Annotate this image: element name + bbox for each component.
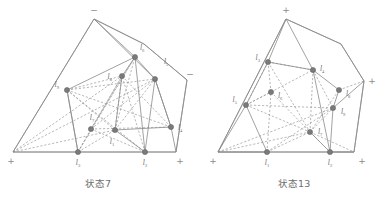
graph-edge-dashed [13, 130, 115, 152]
polarity-marker-apex: − [90, 5, 98, 15]
node-label-l8: l8 [346, 89, 351, 99]
diagram-panel-state-13: ++++l1l2l3l4l5l6l7l8l9 状态13 [196, 0, 392, 211]
graph-edge-dashed [339, 81, 364, 90]
polarity-marker-right: + [368, 76, 376, 86]
node-label-l1: l1 [265, 158, 270, 168]
graph-edge-solid [135, 57, 145, 152]
graph-edge-dashed [267, 92, 271, 152]
graph-node-l7[interactable] [88, 126, 93, 131]
graph-node-l9[interactable] [330, 105, 335, 110]
graph-edge-dashed [218, 108, 333, 152]
graph-edge-dashed [246, 105, 310, 132]
node-label-l2: l2 [143, 158, 148, 168]
graph-canvas-state-7: −−++l1l2l3l4l5l6l7l8l9 [0, 0, 196, 185]
node-label-l5: l5 [233, 95, 238, 105]
polarity-marker-bottom-left: + [209, 156, 217, 166]
graph-edge-dashed [313, 70, 333, 108]
diagram-panel-state-7: −−++l1l2l3l4l5l6l7l8l9 状态7 [0, 0, 196, 211]
figure-root: −−++l1l2l3l4l5l6l7l8l9 状态7 ++++l1l2l3l4l… [0, 0, 392, 211]
graph-node-l8[interactable] [119, 73, 124, 78]
graph-node-l5[interactable] [243, 102, 248, 107]
graph-edge-solid [176, 80, 187, 152]
graph-edge-dashed [67, 90, 145, 152]
graph-edge-solid [341, 44, 364, 81]
graph-edge-dashed [271, 92, 310, 132]
graph-node-l5[interactable] [152, 76, 157, 81]
graph-outline [218, 19, 364, 152]
graph-node-l2[interactable] [142, 149, 147, 154]
graph-edge-dashed [268, 62, 310, 132]
node-label-l5: l5 [164, 57, 169, 67]
graph-node-l1[interactable] [112, 127, 117, 132]
graph-node-l3[interactable] [265, 59, 270, 64]
graph-canvas-state-13: ++++l1l2l3l4l5l6l7l8l9 [196, 0, 392, 185]
graph-outline [13, 19, 187, 152]
graph-edge-dashed [91, 79, 155, 129]
graph-node-l9[interactable] [64, 87, 69, 92]
node-label-l3: l3 [76, 158, 81, 168]
node-label-l7: l7 [318, 127, 323, 137]
graph-edge-solid [268, 19, 286, 62]
graph-edge-dashed [67, 76, 122, 90]
graph-edge-dashed [115, 57, 135, 130]
graph-edge-solid [218, 19, 286, 152]
graph-edge-solid [330, 108, 333, 152]
graph-edge-solid [313, 70, 330, 152]
graph-edge-solid [155, 79, 171, 127]
graph-edge-dashed [78, 129, 91, 152]
graph-edge-solid [354, 81, 364, 152]
graph-node-l4[interactable] [310, 67, 315, 72]
graph-edge-solid [246, 62, 268, 105]
node-label-l7: l7 [90, 113, 95, 123]
graph-edge-solid [94, 19, 144, 44]
node-label-l4: l4 [320, 64, 325, 74]
graph-node-l7[interactable] [307, 129, 312, 134]
polarity-marker-right: − [186, 69, 194, 79]
graph-edge-solid [145, 79, 155, 152]
graph-edge-solid [135, 57, 155, 79]
polarity-marker-bottom-right: + [176, 156, 184, 166]
graph-edge-solid [218, 105, 246, 152]
graph-node-l4[interactable] [168, 124, 173, 129]
graph-edge-solid [94, 19, 155, 79]
graph-edge-dashed [310, 132, 354, 152]
graph-edge-solid [171, 127, 176, 152]
node-label-l9: l9 [55, 80, 60, 90]
graph-edge-dashed [122, 76, 145, 152]
graph-node-l6[interactable] [268, 89, 273, 94]
graph-edge-solid [13, 19, 94, 152]
caption-state-7: 状态7 [0, 176, 196, 190]
graph-node-l1[interactable] [264, 149, 269, 154]
caption-state-13: 状态13 [196, 176, 392, 190]
graph-node-l8[interactable] [336, 87, 341, 92]
polarity-marker-bottom-left: + [7, 156, 15, 166]
node-label-l9: l9 [341, 107, 346, 117]
node-label-l2: l2 [328, 158, 333, 168]
graph-edge-dashed [67, 90, 171, 127]
graph-edge-solid [115, 130, 145, 152]
node-label-l3: l3 [256, 53, 261, 63]
graph-edge-solid [67, 90, 78, 152]
polarity-marker-bottom-right: + [358, 156, 366, 166]
node-label-l6: l6 [278, 91, 283, 101]
graph-node-l6[interactable] [132, 54, 137, 59]
graph-edge-solid [246, 105, 267, 152]
node-label-l8: l8 [108, 72, 113, 82]
graph-edge-solid [286, 19, 313, 70]
graph-edge-dashed [267, 132, 310, 152]
graph-node-l2[interactable] [327, 149, 332, 154]
graph-node-l3[interactable] [75, 149, 80, 154]
graph-edge-solid [268, 62, 313, 70]
graph-edge-solid [286, 19, 341, 44]
graph-edge-dashed [218, 132, 310, 152]
polarity-marker-apex: + [282, 5, 290, 15]
